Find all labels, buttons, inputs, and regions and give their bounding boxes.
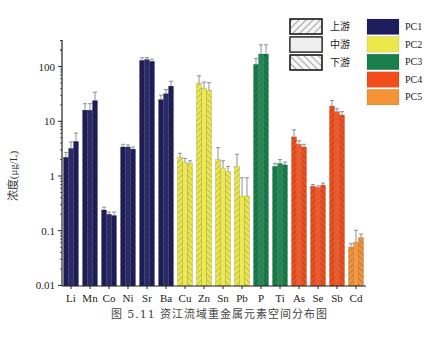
x-tick-label: Sn (217, 292, 229, 304)
bar-hatch (188, 163, 193, 286)
x-tick-label: Sr (142, 292, 152, 304)
bar-shade (164, 94, 169, 286)
bar-group-as (292, 130, 307, 286)
bar-hatch (178, 157, 183, 286)
bar-hatch (359, 238, 364, 286)
bar-group-sb (330, 101, 345, 286)
legend-item-pc1: PC1 (367, 19, 422, 35)
bar-hatch (150, 61, 155, 286)
x-tick-label: Co (103, 292, 116, 304)
bar-group-mn (83, 92, 98, 286)
x-tick-label: P (258, 292, 264, 304)
x-tick-label: Cu (179, 292, 192, 304)
bar-hatch (207, 90, 212, 286)
bar-hatch (340, 115, 345, 286)
bar-chart: LiMnCoNiSrBaCuZnSnPbPTiAsSeSbCd0.010.111… (0, 0, 439, 338)
bar-hatch (140, 60, 145, 286)
y-tick-label: 0.1 (41, 225, 55, 237)
x-tick-label: As (293, 292, 305, 304)
x-tick-label: Zn (198, 292, 211, 304)
bar-shade (297, 144, 302, 286)
x-tick-label: Sb (331, 292, 343, 304)
bar-hatch (64, 157, 69, 286)
figure-caption: 图 5.11 资江流域重金属元素空间分布图 (0, 305, 439, 321)
bar-shade (335, 112, 340, 286)
bar-hatch (245, 196, 250, 286)
bar-hatch (112, 215, 117, 286)
x-tick-label: Ba (160, 292, 172, 304)
bar-hatch (292, 137, 297, 286)
legend-item-pc4: PC4 (367, 72, 422, 88)
bar-hatch (283, 165, 288, 286)
legend-item-pc3: PC3 (367, 54, 422, 69)
bar-shade (202, 88, 207, 286)
bar-hatch (349, 247, 354, 286)
x-tick-label: Mn (82, 292, 98, 304)
legend-item-pc2: PC2 (367, 37, 422, 53)
legend: 上游中游下游PC1PC2PC3PC4PC5 (290, 19, 422, 105)
bar-hatch (197, 83, 202, 286)
legend-item-midstream: 中游 (290, 37, 350, 52)
bar-shade (240, 196, 245, 286)
x-tick-label: Ti (275, 292, 284, 304)
bar-shade (126, 147, 131, 286)
x-tick-label: Se (313, 292, 324, 304)
bar-hatch (273, 166, 278, 286)
bar-hatch (93, 101, 98, 286)
bar-shade (259, 54, 264, 286)
bar-hatch (321, 185, 326, 286)
bar-shade (354, 242, 359, 286)
bar-shade (145, 59, 150, 286)
bar-hatch (264, 54, 269, 286)
bar-shade (88, 110, 93, 286)
bar-hatch (121, 147, 126, 286)
bar-shade (221, 168, 226, 286)
bar-hatch (330, 106, 335, 286)
bar-hatch (302, 147, 307, 286)
bar-group-cd (349, 230, 364, 286)
bar-group-ti (273, 160, 288, 286)
bar-group-zn (197, 76, 212, 286)
legend-label: PC5 (405, 91, 422, 102)
bar-hatch (131, 149, 136, 286)
x-tick-label: Ni (123, 292, 134, 304)
bar-hatch (169, 86, 174, 286)
legend-label: 中游 (330, 38, 350, 50)
bar-group-ba (159, 81, 174, 286)
bar-shade (69, 148, 74, 286)
bars-layer (64, 45, 364, 286)
bar-hatch (254, 64, 259, 286)
x-tick-label: Li (66, 292, 76, 304)
bar-hatch (216, 160, 221, 286)
bar-hatch (159, 100, 164, 286)
bar-group-li (64, 133, 79, 286)
bar-hatch (74, 141, 79, 286)
legend-label: PC1 (405, 21, 422, 32)
legend-item-downstream: 下游 (290, 55, 350, 70)
legend-item-upstream: 上游 (290, 19, 350, 34)
bar-hatch (235, 166, 240, 286)
legend-label: PC4 (405, 74, 422, 85)
y-tick-label: 10 (44, 115, 56, 127)
bar-hatch (83, 110, 88, 286)
bar-group-cu (178, 153, 193, 286)
bar-hatch (102, 210, 107, 286)
bar-shade (107, 214, 112, 286)
bar-shade (183, 162, 188, 286)
legend-label: 上游 (330, 20, 350, 32)
bar-group-sn (216, 148, 231, 286)
bar-group-ni (121, 144, 136, 286)
bar-hatch (226, 172, 231, 286)
legend-label: 下游 (330, 56, 350, 68)
legend-label: PC3 (405, 56, 422, 67)
legend-item-pc5: PC5 (367, 89, 422, 105)
y-tick-label: 1 (50, 170, 56, 182)
y-tick-label: 0.01 (36, 279, 55, 291)
bar-group-p (254, 45, 269, 286)
bar-group-se (311, 183, 326, 286)
bar-group-sr (140, 57, 155, 286)
legend-label: PC2 (405, 39, 422, 50)
bar-shade (316, 187, 321, 286)
y-axis-label: 浓度(μg/L) (4, 151, 20, 202)
x-tick-label: Pb (236, 292, 248, 304)
